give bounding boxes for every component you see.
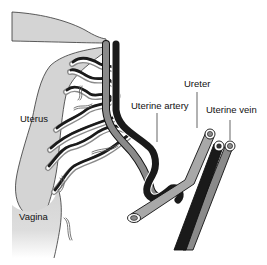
label-uterine-artery: Uterine artery	[131, 101, 189, 111]
uterus-shape	[15, 47, 105, 216]
uterine-artery-trunk	[116, 44, 180, 200]
uterine-vasculature-diagram	[0, 0, 267, 265]
label-vagina: Vagina	[19, 212, 48, 222]
label-ureter: Ureter	[184, 79, 210, 89]
label-uterine-vein: Uterine vein	[206, 105, 257, 115]
broad-ligament-shape	[12, 12, 106, 43]
label-uterus: Uterus	[20, 114, 48, 124]
